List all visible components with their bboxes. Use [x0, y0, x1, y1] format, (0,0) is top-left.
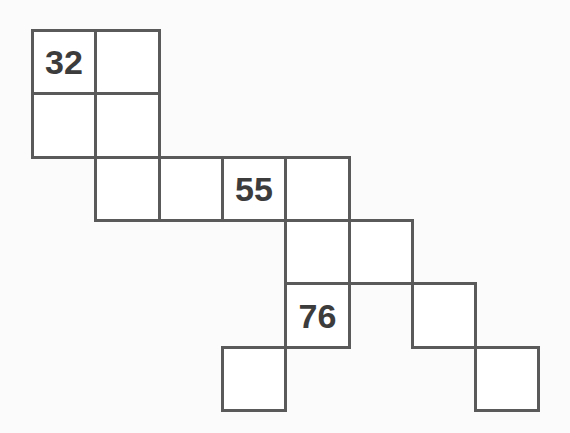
given-number-cell[interactable]: 76: [284, 282, 351, 349]
empty-cell[interactable]: [31, 92, 97, 159]
puzzle-grid: 325576: [0, 0, 570, 433]
empty-cell[interactable]: [158, 156, 224, 222]
empty-cell[interactable]: [94, 156, 161, 222]
given-number-cell[interactable]: 55: [221, 156, 287, 222]
given-number-cell[interactable]: 32: [31, 29, 97, 95]
empty-cell[interactable]: [94, 29, 161, 95]
empty-cell[interactable]: [284, 156, 351, 222]
empty-cell[interactable]: [94, 92, 161, 159]
cell-number: 76: [299, 299, 337, 333]
empty-cell[interactable]: [221, 346, 287, 412]
empty-cell[interactable]: [348, 219, 414, 285]
cell-number: 32: [45, 45, 83, 79]
empty-cell[interactable]: [411, 282, 477, 349]
cell-number: 55: [235, 172, 273, 206]
empty-cell[interactable]: [284, 219, 351, 285]
empty-cell[interactable]: [474, 346, 540, 412]
